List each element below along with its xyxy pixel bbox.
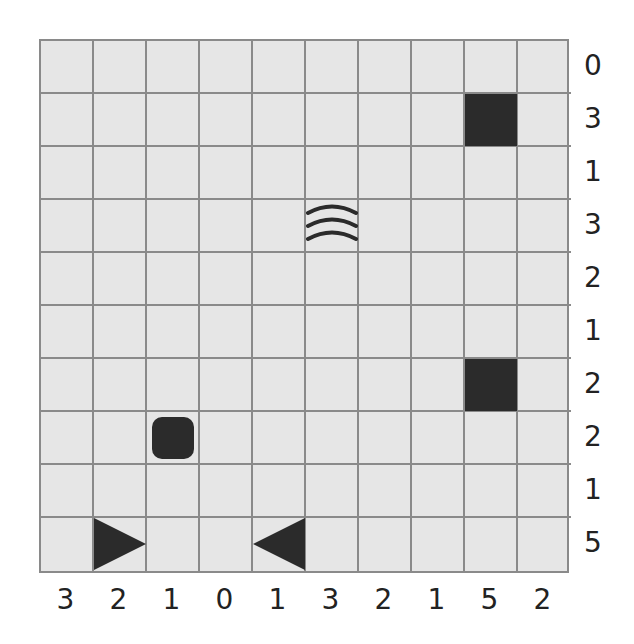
grid-cell[interactable]	[306, 518, 359, 571]
grid-cell[interactable]	[518, 41, 571, 94]
grid-cell[interactable]	[412, 41, 465, 94]
grid-cell[interactable]	[359, 412, 412, 465]
grid-cell[interactable]	[518, 147, 571, 200]
grid-cell[interactable]	[518, 94, 571, 147]
grid-cell[interactable]	[465, 306, 518, 359]
grid-cell[interactable]	[412, 359, 465, 412]
grid-cell[interactable]	[518, 465, 571, 518]
grid-cell[interactable]	[306, 359, 359, 412]
grid-cell[interactable]	[200, 41, 253, 94]
grid-cell[interactable]	[41, 41, 94, 94]
grid-cell[interactable]	[94, 41, 147, 94]
grid-cell[interactable]	[518, 253, 571, 306]
grid-cell[interactable]	[147, 41, 200, 94]
grid-cell[interactable]	[359, 518, 412, 571]
grid-cell[interactable]	[465, 465, 518, 518]
grid-cell[interactable]	[41, 412, 94, 465]
grid-cell[interactable]	[412, 200, 465, 253]
grid-cell[interactable]	[306, 465, 359, 518]
grid-cell[interactable]	[41, 147, 94, 200]
grid-cell[interactable]	[253, 306, 306, 359]
grid-cell[interactable]	[94, 147, 147, 200]
grid-cell[interactable]	[147, 94, 200, 147]
column-clue: 2	[92, 583, 145, 616]
grid-cell[interactable]	[200, 518, 253, 571]
grid-cell[interactable]	[41, 306, 94, 359]
grid-cell[interactable]	[306, 41, 359, 94]
grid-cell[interactable]	[253, 200, 306, 253]
grid-cell[interactable]	[200, 465, 253, 518]
grid-cell[interactable]	[253, 94, 306, 147]
grid-cell[interactable]	[412, 253, 465, 306]
grid-cell[interactable]	[412, 147, 465, 200]
grid-cell[interactable]	[359, 94, 412, 147]
grid-cell[interactable]	[147, 518, 200, 571]
grid-cell[interactable]	[94, 359, 147, 412]
grid-cell[interactable]	[94, 200, 147, 253]
grid-cell[interactable]	[465, 412, 518, 465]
grid-cell[interactable]	[518, 200, 571, 253]
grid-cell[interactable]	[147, 359, 200, 412]
grid-cell[interactable]	[200, 94, 253, 147]
grid-cell[interactable]	[412, 306, 465, 359]
column-clue: 2	[357, 583, 410, 616]
grid-cell[interactable]	[41, 253, 94, 306]
grid-cell[interactable]	[41, 359, 94, 412]
grid-cell[interactable]	[94, 465, 147, 518]
grid-cell[interactable]	[200, 253, 253, 306]
ship-single-segment	[147, 412, 199, 464]
grid-cell[interactable]	[200, 200, 253, 253]
grid-cell[interactable]	[518, 359, 571, 412]
grid-cell[interactable]	[359, 41, 412, 94]
grid-cell[interactable]	[94, 94, 147, 147]
grid-cell[interactable]	[253, 253, 306, 306]
grid-cell[interactable]	[147, 306, 200, 359]
grid-cell[interactable]	[200, 359, 253, 412]
grid-cell[interactable]	[306, 94, 359, 147]
grid-cell[interactable]	[253, 412, 306, 465]
column-clue: 3	[39, 583, 92, 616]
grid-cell[interactable]	[412, 465, 465, 518]
column-clue: 3	[304, 583, 357, 616]
grid-cell[interactable]	[253, 465, 306, 518]
grid-cell[interactable]	[359, 200, 412, 253]
grid-cell[interactable]	[465, 518, 518, 571]
grid-cell[interactable]	[465, 41, 518, 94]
grid-cell[interactable]	[41, 200, 94, 253]
column-clue: 0	[198, 583, 251, 616]
grid-cell[interactable]	[94, 306, 147, 359]
grid-cell[interactable]	[253, 147, 306, 200]
grid-cell[interactable]	[465, 147, 518, 200]
grid-cell[interactable]	[147, 147, 200, 200]
grid-cell[interactable]	[200, 147, 253, 200]
grid-cell[interactable]	[253, 41, 306, 94]
grid-cell[interactable]	[94, 412, 147, 465]
grid-cell[interactable]	[359, 359, 412, 412]
grid-cell[interactable]	[412, 412, 465, 465]
grid-cell[interactable]	[147, 465, 200, 518]
grid-cell[interactable]	[41, 518, 94, 571]
grid-cell[interactable]	[306, 253, 359, 306]
grid-cell[interactable]	[94, 253, 147, 306]
grid-cell[interactable]	[465, 200, 518, 253]
grid-cell[interactable]	[359, 465, 412, 518]
grid-cell[interactable]	[412, 94, 465, 147]
grid-cell[interactable]	[306, 147, 359, 200]
grid-cell[interactable]	[147, 253, 200, 306]
grid-cell[interactable]	[359, 147, 412, 200]
grid-cell[interactable]	[41, 465, 94, 518]
grid-cell[interactable]	[200, 306, 253, 359]
grid-cell[interactable]	[359, 306, 412, 359]
grid-cell[interactable]	[306, 412, 359, 465]
grid-cell[interactable]	[306, 306, 359, 359]
grid-cell[interactable]	[518, 412, 571, 465]
grid-cell[interactable]	[41, 94, 94, 147]
grid-cell[interactable]	[518, 306, 571, 359]
grid-cell[interactable]	[465, 253, 518, 306]
grid-cell[interactable]	[412, 518, 465, 571]
grid-cell[interactable]	[359, 253, 412, 306]
grid-cell[interactable]	[253, 359, 306, 412]
grid-cell[interactable]	[200, 412, 253, 465]
grid-cell[interactable]	[518, 518, 571, 571]
grid-cell[interactable]	[147, 200, 200, 253]
